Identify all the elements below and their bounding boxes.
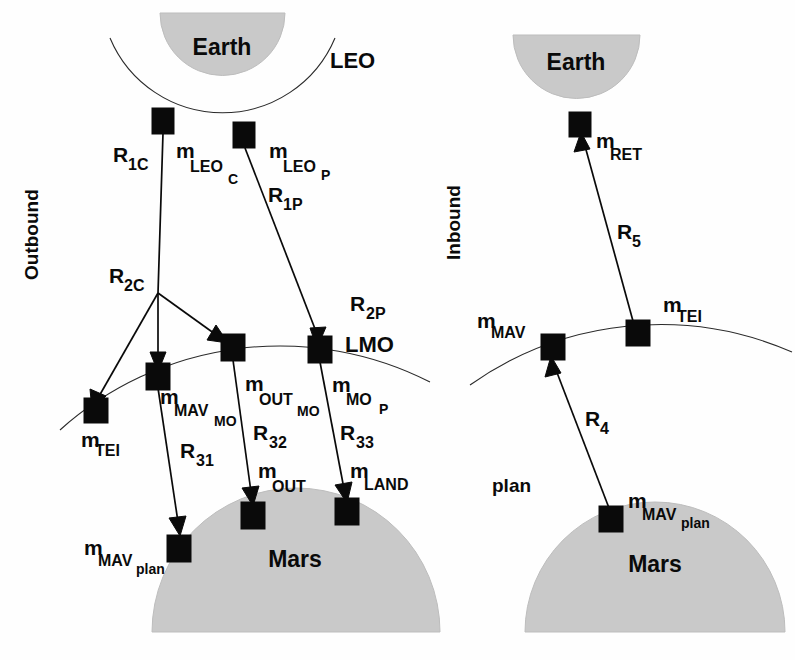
svg-text:MO: MO — [214, 413, 237, 429]
svg-text:R: R — [617, 220, 632, 243]
diagram-canvas: Earth LEO LMO Mars Outbound R 1C — [0, 0, 795, 660]
svg-text:TEI: TEI — [677, 308, 702, 325]
label-m-out-mo: m OUT MO — [245, 372, 320, 419]
svg-text:RET: RET — [610, 146, 642, 163]
flow-r2c-outmo-line — [158, 293, 215, 334]
svg-text:LEO: LEO — [190, 158, 223, 175]
flow-r1p-line — [245, 148, 317, 334]
earth-label-outbound: Earth — [193, 34, 252, 60]
svg-text:MO: MO — [346, 391, 372, 408]
svg-text:4: 4 — [600, 420, 609, 437]
label-r1c: R 1C — [113, 143, 149, 173]
svg-text:1P: 1P — [283, 196, 303, 213]
svg-text:R: R — [180, 439, 195, 462]
label-m-leo-c: m LEO C — [176, 139, 238, 187]
flow-r31-arrowhead — [169, 516, 186, 536]
node-m-mav[interactable] — [541, 334, 565, 360]
label-m-tei-outbound: m TEI — [81, 428, 120, 459]
svg-text:plan: plan — [681, 515, 710, 531]
svg-text:P: P — [321, 167, 330, 183]
plan-text-label: plan — [492, 475, 531, 496]
node-m-mo-p[interactable] — [308, 336, 332, 363]
svg-text:2C: 2C — [124, 277, 145, 294]
label-m-ret: m RET — [596, 129, 642, 163]
node-m-out-mo[interactable] — [221, 334, 245, 361]
svg-text:32: 32 — [269, 434, 287, 451]
inbound-side-label: Inbound — [443, 185, 464, 260]
svg-text:2P: 2P — [366, 305, 386, 322]
earth-label-inbound: Earth — [547, 49, 606, 75]
svg-text:OUT: OUT — [272, 478, 306, 495]
node-m-land[interactable] — [335, 498, 359, 525]
label-r1p: R 1P — [268, 183, 303, 213]
node-m-mav-plan-inbound[interactable] — [599, 506, 623, 532]
svg-text:LAND: LAND — [364, 476, 408, 493]
svg-text:MO: MO — [297, 403, 320, 419]
mars-label-outbound: Mars — [268, 546, 322, 572]
svg-text:R: R — [109, 264, 124, 287]
svg-text:P: P — [379, 401, 388, 417]
svg-text:plan: plan — [136, 561, 165, 577]
svg-text:33: 33 — [356, 434, 374, 451]
svg-text:R: R — [585, 407, 600, 430]
svg-text:31: 31 — [196, 452, 214, 469]
svg-text:LEO: LEO — [283, 158, 316, 175]
mission-flow-diagram: Earth LEO LMO Mars Outbound R 1C — [0, 0, 795, 660]
label-m-mav: m MAV — [477, 309, 526, 341]
flow-r1c-line — [158, 133, 163, 293]
node-m-ret[interactable] — [569, 112, 591, 137]
leo-orbit-label: LEO — [330, 48, 375, 73]
label-r5: R 5 — [617, 220, 641, 250]
lmo-orbit-label: LMO — [345, 332, 394, 357]
label-r31: R 31 — [180, 439, 214, 469]
svg-text:MAV: MAV — [491, 324, 526, 341]
node-m-tei-outbound[interactable] — [84, 398, 108, 423]
svg-text:OUT: OUT — [259, 391, 293, 408]
node-m-leo-p[interactable] — [233, 122, 255, 148]
node-m-out[interactable] — [241, 502, 265, 529]
svg-text:R: R — [350, 292, 365, 315]
label-r2c: R 2C — [109, 264, 145, 294]
svg-text:R: R — [340, 421, 355, 444]
label-r4: R 4 — [585, 407, 609, 437]
svg-text:R: R — [268, 183, 283, 206]
label-m-mo-p: m MO P — [332, 373, 388, 417]
mars-label-inbound: Mars — [628, 551, 682, 577]
label-r32: R 32 — [253, 421, 287, 451]
node-m-tei-inbound[interactable] — [626, 320, 650, 346]
svg-text:C: C — [228, 171, 238, 187]
flow-r4-line — [556, 370, 609, 508]
label-m-land: m LAND — [350, 459, 408, 493]
label-r33: R 33 — [340, 421, 374, 451]
node-m-mav-plan-outbound[interactable] — [167, 535, 191, 562]
node-m-leo-c[interactable] — [152, 108, 174, 134]
outbound-side-label: Outbound — [21, 189, 42, 280]
label-m-mav-plan-outbound: m MAV plan — [84, 536, 165, 577]
svg-text:MAV: MAV — [642, 506, 677, 523]
label-m-out: m OUT — [258, 459, 306, 495]
label-m-leo-p: m LEO P — [269, 139, 330, 183]
label-m-mav-mo: m MAV MO — [160, 385, 237, 429]
svg-text:TEI: TEI — [95, 442, 120, 459]
label-r2p: R 2P — [350, 292, 386, 322]
svg-text:1C: 1C — [128, 156, 149, 173]
svg-text:5: 5 — [632, 233, 641, 250]
label-m-tei-inbound: m TEI — [663, 293, 702, 325]
svg-text:R: R — [113, 143, 128, 166]
svg-text:MAV: MAV — [174, 402, 209, 419]
svg-text:MAV: MAV — [98, 552, 133, 569]
svg-text:R: R — [253, 421, 268, 444]
